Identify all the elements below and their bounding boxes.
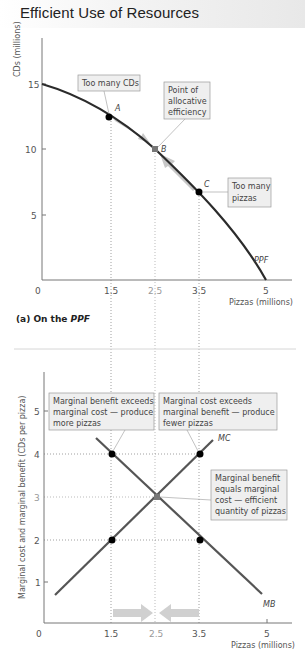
point-mc-1.5 [109,537,116,544]
x-axis-label-a: Pizzas (millions) [229,298,293,307]
callout-too-many-cds-text: Too many CDs [81,79,139,88]
point-efficient [154,494,160,500]
x-tick-2.5: 2.5 [148,286,162,296]
callout-allocative-line2: allocative [168,97,207,106]
mb-label: MB [263,600,275,609]
callout-mb-exceeds-line2: marginal cost — produce [53,408,153,417]
y-tick-3-b: 3 [34,493,40,503]
callout-mc-exceeds-line3: fewer pizzas [163,419,213,428]
x-tick-0: 0 [35,286,41,296]
mc-label: MC [218,434,231,443]
callout-mb-exceeds-line3: more pizzas [53,419,101,428]
y-axis-label-b: Marginal cost and marginal benefit (CDs … [18,396,27,599]
point-a-label: A [114,104,120,113]
figure: 15 10 5 CDs (millions) 0 1.5 2.5 3.5 5 P… [0,0,305,656]
y-tick-2-b: 2 [34,536,40,546]
y-tick-5-b: 5 [34,407,40,417]
callout-equal-line2: equals marginal [215,485,279,494]
arrow-decrease-quantity [159,604,199,622]
mc-line [55,440,213,595]
y-axis-label-a: CDs (millions) [13,21,22,77]
point-c-label: C [204,180,210,189]
y-tick-5: 5 [31,211,37,221]
mc-mb-chart: 5 4 3 2 1 Marginal cost and marginal ben… [18,372,295,650]
callout-too-many-pizzas-line1: Too many [231,182,271,191]
point-mb-1.5 [109,451,116,458]
point-b [152,146,158,152]
ppf-label: PPF [254,256,269,265]
x-tick-0-b: 0 [36,629,42,639]
y-tick-1-b: 1 [35,578,41,588]
callout-equal-line1: Marginal benefit [215,474,280,483]
x-tick-1.5-b: 1.5 [104,629,118,639]
point-c [196,189,203,196]
callout-too-many-pizzas-line2: pizzas [232,194,257,203]
x-axis-label-b: Pizzas (millions) [231,641,295,650]
point-mc-3.5 [197,451,204,458]
panel-a-caption-prefix: (a) On the [16,314,71,324]
callout-mc-exceeds-line1: Marginal cost exceeds [163,397,252,406]
callout-allocative-line3: efficiency [168,108,207,117]
point-a [106,114,113,121]
panel-a-caption: (a) On the PPF [16,314,90,324]
x-tick-2.5-b: 2.5 [149,629,163,639]
x-tick-3.5: 3.5 [192,286,206,296]
x-tick-3.5-b: 3.5 [192,629,206,639]
callout-equal-line3: cost — efficient [215,496,277,505]
callout-allocative-line1: Point of [168,86,198,95]
point-b-label: B [161,145,167,154]
point-mb-3.5 [197,537,204,544]
x-tick-1.5: 1.5 [104,286,118,296]
y-tick-4-b: 4 [34,450,40,460]
callout-mb-exceeds-line1: Marginal benefit exceeds [53,397,154,406]
arrow-increase-quantity [113,604,153,622]
y-tick-15: 15 [28,80,39,90]
x-tick-5: 5 [263,286,269,296]
panel-a-caption-em: PPF [71,314,90,324]
y-tick-10: 10 [25,145,37,155]
x-tick-5-b: 5 [264,629,270,639]
callout-equal-line4: quantity of pizzas [215,507,286,516]
callout-mc-exceeds-line2: marginal benefit — produce [163,408,275,417]
